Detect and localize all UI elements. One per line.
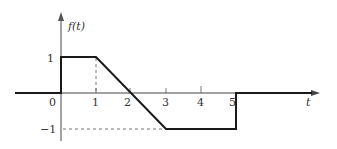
tick-label-x5: 5 xyxy=(229,96,236,109)
signal-plot: f(t) t 1 −1 0 1 2 3 4 5 xyxy=(0,0,337,149)
tick-label-ym1: −1 xyxy=(40,123,56,136)
tick-label-x2: 2 xyxy=(124,96,131,109)
x-axis-label: t xyxy=(306,96,311,109)
y-axis-arrow-icon xyxy=(58,12,64,21)
tick-label-x1: 1 xyxy=(92,96,99,109)
tick-label-x4: 4 xyxy=(197,96,204,109)
tick-label-x3: 3 xyxy=(162,96,169,109)
x-ticks xyxy=(96,86,201,93)
tick-label-y1: 1 xyxy=(47,52,54,65)
tick-label-origin: 0 xyxy=(49,96,56,109)
labels: f(t) t 1 −1 0 1 2 3 4 5 xyxy=(40,20,311,136)
x-axis-arrow-icon xyxy=(311,90,320,96)
y-axis-label: f(t) xyxy=(67,20,85,33)
